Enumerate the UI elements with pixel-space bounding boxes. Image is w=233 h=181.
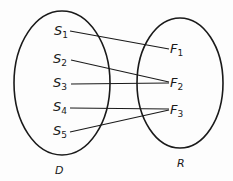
label-f1: F1 [170, 41, 183, 58]
label-s5: S5 [53, 123, 67, 140]
diagram-svg: S1 S2 S3 S4 S5 F1 F2 F3 D R [0, 0, 233, 181]
label-f3: F3 [170, 102, 183, 119]
arrow-s1-f1 [70, 31, 169, 49]
arrow-s2-f2 [71, 60, 169, 82]
mapping-diagram: S1 S2 S3 S4 S5 F1 F2 F3 D R [0, 0, 233, 181]
label-s4: S4 [53, 99, 67, 116]
label-s3: S3 [53, 75, 67, 92]
domain-label: D [55, 164, 63, 177]
label-f2: F2 [170, 75, 183, 92]
arrow-s5-f3 [70, 110, 169, 132]
arrow-s3-f2 [71, 83, 169, 84]
label-s1: S1 [54, 23, 68, 40]
range-label: R [177, 157, 185, 170]
arrow-s4-f3 [70, 108, 169, 109]
mapping-lines [70, 31, 169, 132]
label-s2: S2 [53, 51, 67, 68]
